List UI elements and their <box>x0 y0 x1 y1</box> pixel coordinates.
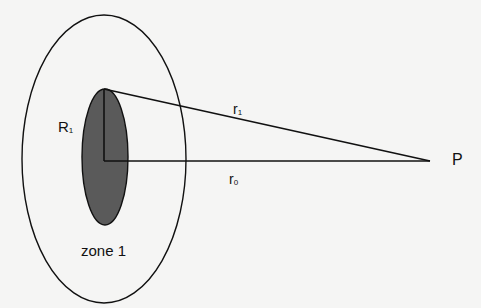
diagram-canvas: R1 r1 r0 P zone 1 <box>0 0 481 308</box>
label-zone-1: zone 1 <box>81 243 126 258</box>
diagram-svg <box>0 0 481 308</box>
label-r0-sub: 0 <box>234 178 238 187</box>
label-P: P <box>452 152 463 168</box>
label-r1: r1 <box>233 102 242 117</box>
label-r0: r0 <box>229 172 238 187</box>
inner-source-ellipse <box>82 89 128 225</box>
label-r1-sub: 1 <box>238 108 242 117</box>
label-R1-sub: 1 <box>69 126 73 135</box>
distance-r1-line <box>104 89 430 161</box>
label-R1-main: R <box>58 118 69 135</box>
label-R1: R1 <box>58 119 73 135</box>
